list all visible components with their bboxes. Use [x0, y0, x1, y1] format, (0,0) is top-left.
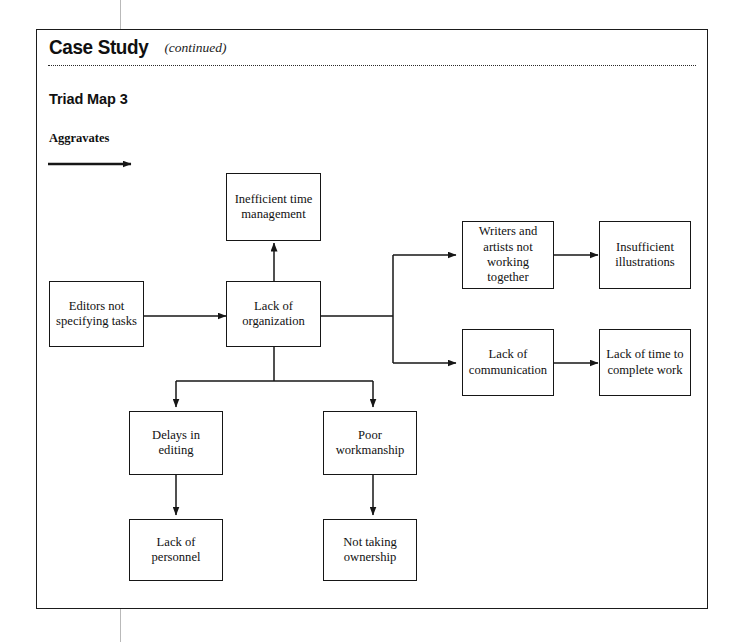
node-lack-of-communication[interactable]: Lack of communication	[462, 329, 554, 396]
node-writers-and-artists-not-working-together[interactable]: Writers and artists not working together	[462, 221, 554, 289]
node-label: Editors not specifying tasks	[54, 299, 139, 330]
node-label: Poor workmanship	[328, 428, 412, 459]
node-label: Lack of communication	[467, 347, 549, 378]
node-lack-of-organization[interactable]: Lack of organization	[226, 281, 321, 347]
node-label: Inefficient time management	[231, 192, 316, 223]
node-insufficient-illustrations[interactable]: Insufficient illustrations	[599, 221, 691, 289]
node-editors-not-specifying-tasks[interactable]: Editors not specifying tasks	[49, 281, 144, 347]
margin-registration-line-top	[120, 0, 121, 30]
node-poor-workmanship[interactable]: Poor workmanship	[323, 411, 417, 475]
node-label: Insufficient illustrations	[604, 240, 686, 271]
node-lack-of-time-to-complete-work[interactable]: Lack of time to complete work	[599, 329, 691, 396]
node-lack-of-personnel[interactable]: Lack of personnel	[129, 519, 223, 581]
node-label: Lack of time to complete work	[604, 347, 686, 378]
node-label: Writers and artists not working together	[467, 224, 549, 285]
margin-registration-line-bottom	[120, 608, 121, 642]
node-label: Delays in editing	[134, 428, 218, 459]
node-not-taking-ownership[interactable]: Not taking ownership	[323, 519, 417, 581]
node-delays-in-editing[interactable]: Delays in editing	[129, 411, 223, 475]
node-label: Lack of organization	[231, 299, 316, 330]
node-inefficient-time-management[interactable]: Inefficient time management	[226, 173, 321, 241]
edge-organization-to-bottom-branch	[176, 346, 373, 407]
edge-organization-to-right-branch	[321, 255, 456, 363]
node-label: Not taking ownership	[328, 535, 412, 566]
case-study-page-frame: Case Study(continued) Triad Map 3 Aggrav…	[36, 29, 708, 609]
node-label: Lack of personnel	[134, 535, 218, 566]
